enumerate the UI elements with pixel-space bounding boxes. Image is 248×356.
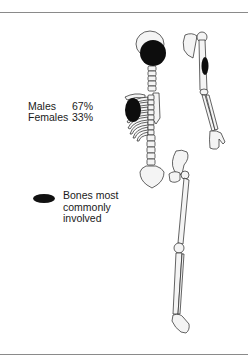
- femur: [178, 178, 189, 244]
- lower-limb: [169, 150, 189, 333]
- skeleton-illustration: [0, 0, 248, 356]
- ribs: [125, 97, 148, 141]
- pubis: [169, 172, 180, 183]
- hand: [210, 131, 226, 150]
- cervical-spine: [148, 66, 156, 91]
- sacrum: [140, 166, 164, 188]
- patella: [174, 243, 184, 253]
- skull-lesion: [140, 40, 166, 66]
- scapula: [183, 34, 197, 58]
- humerus-lesion: [202, 57, 209, 75]
- skull: [136, 31, 166, 66]
- thoracic-lumbar-spine: [147, 95, 155, 165]
- upper-limb: [183, 32, 225, 149]
- foot: [172, 314, 189, 333]
- rib-lesion: [125, 98, 141, 122]
